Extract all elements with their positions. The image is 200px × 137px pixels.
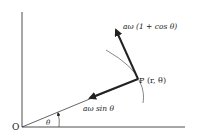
radial-velocity-label: aω sin θ [83, 104, 114, 113]
transverse-velocity-arrow [116, 30, 138, 79]
origin-label: O [12, 122, 19, 132]
radial-velocity-arrow [90, 79, 138, 98]
transverse-velocity-label: aω (1 + cos θ) [123, 22, 177, 31]
angle-label: θ [46, 119, 51, 127]
angle-arc [58, 113, 59, 127]
polar-velocity-diagram: O θ P (r, θ) aω sin θ aω (1 + cos θ) [0, 0, 200, 137]
point-label: P (r, θ) [139, 76, 166, 85]
